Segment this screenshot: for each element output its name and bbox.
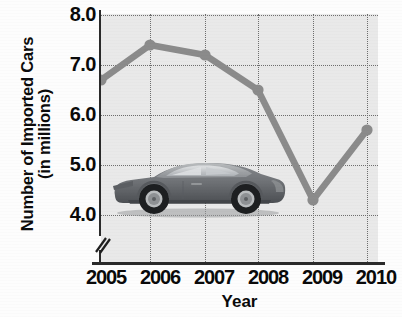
chart-container: Number of Imported Cars (in millions) <box>0 0 402 317</box>
y-tick-6: 6.0 <box>44 103 96 126</box>
x-tick-2007: 2007 <box>194 266 234 292</box>
x-axis-line <box>92 262 385 265</box>
y-tick-8: 8.0 <box>44 3 96 26</box>
x-axis-title: Year <box>101 292 378 312</box>
x-tick-2009: 2009 <box>302 266 342 292</box>
x-axis-tick-labels: 2005 2006 2007 2008 2009 2010 <box>86 266 396 292</box>
y-axis-title-line-1: Number of Imported Cars <box>19 37 36 231</box>
y-axis-line-upper <box>99 10 101 236</box>
data-series-line <box>101 14 378 216</box>
data-point-2009 <box>307 194 318 205</box>
data-point-2010 <box>361 124 372 135</box>
x-tick-2008: 2008 <box>248 266 288 292</box>
data-point-2007 <box>199 49 210 60</box>
x-tick-2006: 2006 <box>140 266 180 292</box>
y-tick-5: 5.0 <box>44 153 96 176</box>
y-tick-7: 7.0 <box>44 53 96 76</box>
data-point-2008 <box>252 84 263 95</box>
y-axis-tick-labels: 8.0 7.0 6.0 5.0 4.0 <box>40 0 96 240</box>
x-tick-2010: 2010 <box>356 266 396 292</box>
x-tick-2005: 2005 <box>86 266 126 292</box>
y-tick-4: 4.0 <box>44 203 96 226</box>
data-point-2006 <box>144 39 155 50</box>
